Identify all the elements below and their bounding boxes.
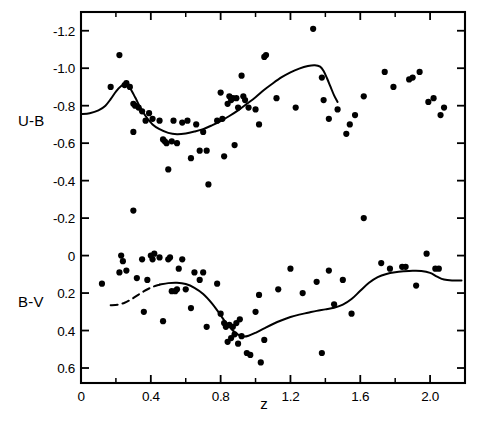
data-point	[314, 279, 320, 285]
y-tick-label: 0.4	[35, 323, 75, 338]
data-point	[436, 266, 442, 272]
data-point	[218, 89, 224, 95]
data-point	[130, 208, 136, 214]
x-tick-label: 2.0	[421, 389, 439, 404]
data-point	[417, 69, 423, 75]
data-point	[134, 275, 140, 281]
data-point	[252, 106, 258, 112]
data-point	[258, 359, 264, 365]
data-point	[403, 264, 409, 270]
data-point	[263, 52, 269, 58]
data-point	[382, 69, 388, 75]
data-point	[352, 112, 358, 118]
data-point	[293, 104, 299, 110]
data-point	[425, 99, 431, 105]
data-point	[300, 290, 306, 296]
data-point	[160, 318, 166, 324]
data-point	[183, 286, 189, 292]
data-point	[200, 129, 206, 135]
series-axis-label: B-V	[18, 293, 44, 310]
x-tick-label: 0	[77, 389, 84, 404]
data-point	[424, 251, 430, 257]
data-point	[232, 331, 238, 337]
data-point	[144, 277, 150, 283]
fit-curve	[111, 285, 160, 306]
data-point	[410, 74, 416, 80]
x-axis-title: z	[260, 395, 268, 412]
data-point	[188, 305, 194, 311]
data-point	[321, 97, 327, 103]
data-point	[238, 333, 244, 339]
series-axis-label: U-B	[18, 112, 44, 129]
data-point	[256, 292, 262, 298]
y-tick-label: -0.6	[35, 136, 75, 151]
data-points	[99, 26, 447, 366]
data-point	[348, 311, 354, 317]
plot-frame	[81, 12, 465, 383]
y-tick-label: -0.2	[35, 211, 75, 226]
x-tick-label: 0.8	[212, 389, 230, 404]
data-point	[116, 52, 122, 58]
data-point	[343, 131, 349, 137]
data-point	[130, 129, 136, 135]
data-point	[310, 26, 316, 32]
data-point	[218, 311, 224, 317]
data-point	[108, 84, 114, 90]
y-tick-label: 0	[35, 248, 75, 263]
data-point	[235, 341, 241, 347]
data-point	[275, 286, 281, 292]
data-point	[214, 281, 220, 287]
x-tick-label: 0.4	[142, 389, 160, 404]
data-point	[261, 337, 267, 343]
data-point	[123, 267, 129, 273]
data-point	[165, 166, 171, 172]
data-point	[170, 118, 176, 124]
data-point	[156, 254, 162, 260]
data-point	[340, 277, 346, 283]
data-point	[200, 269, 206, 275]
data-point	[197, 277, 203, 283]
data-point	[179, 256, 185, 262]
data-point	[193, 121, 199, 127]
data-point	[146, 110, 152, 116]
x-tick-label: 1.2	[282, 389, 300, 404]
data-point	[361, 93, 367, 99]
x-tick-label: 1.6	[351, 389, 369, 404]
data-point	[204, 148, 210, 154]
data-point	[139, 108, 145, 114]
data-point	[167, 254, 173, 260]
data-point	[204, 324, 210, 330]
data-point	[252, 309, 258, 315]
data-point	[413, 282, 419, 288]
data-point	[156, 118, 162, 124]
data-point	[387, 266, 393, 272]
data-point	[334, 106, 340, 112]
data-point	[287, 266, 293, 272]
figure-container: -1.2-1.0-0.8-0.6-0.4-0.200.20.40.6 00.40…	[0, 0, 481, 428]
data-point	[141, 309, 147, 315]
data-point	[149, 116, 155, 122]
data-point	[237, 316, 243, 322]
data-point	[361, 215, 367, 221]
data-point	[273, 95, 279, 101]
data-point	[149, 256, 155, 262]
plot-border	[81, 12, 465, 383]
y-tick-label: -0.4	[35, 173, 75, 188]
data-point	[174, 286, 180, 292]
data-point	[247, 352, 253, 358]
y-tick-label: -1.2	[35, 23, 75, 38]
data-point	[99, 281, 105, 287]
data-point	[233, 95, 239, 101]
data-point	[430, 95, 436, 101]
data-point	[127, 84, 133, 90]
data-point	[256, 121, 262, 127]
data-point	[188, 155, 194, 161]
axis-ticks	[81, 12, 465, 383]
data-point	[174, 140, 180, 146]
data-point	[238, 73, 244, 79]
data-point	[116, 269, 122, 275]
data-point	[245, 104, 251, 110]
data-point	[176, 266, 182, 272]
data-point	[331, 301, 337, 307]
data-point	[184, 118, 190, 124]
